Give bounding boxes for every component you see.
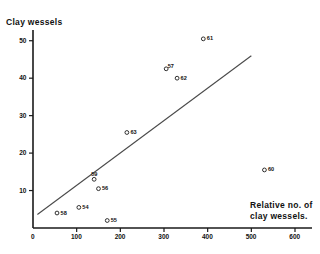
data-point-marker: [125, 131, 129, 135]
y-axis-tick-label: 20: [19, 149, 26, 156]
data-point-marker: [263, 168, 267, 172]
y-axis-tick-label: 50: [19, 37, 26, 44]
data-point-label: 62: [181, 75, 187, 81]
data-point-label: 63: [130, 129, 136, 135]
data-point-label: 56: [102, 185, 108, 191]
y-axis-tick-label: 10: [19, 187, 26, 194]
data-point-marker: [105, 219, 109, 223]
x-axis-title-line2: clay wessels.: [250, 211, 308, 221]
data-point-marker: [55, 211, 59, 215]
data-point-label: 61: [207, 35, 213, 41]
x-axis-tick-label: 100: [71, 233, 82, 240]
x-axis-tick-label: 400: [202, 233, 213, 240]
data-point-label: 54: [82, 204, 88, 210]
data-point-label: 59: [91, 171, 97, 177]
x-axis-title-line1: Relative no. of: [250, 200, 313, 210]
x-axis-title: Relative no. of clay wessels.: [250, 200, 320, 222]
data-point-label: 57: [168, 63, 174, 69]
regression-line: [37, 56, 251, 215]
data-point-label: 55: [111, 217, 117, 223]
x-axis-tick-label: 300: [158, 233, 169, 240]
y-axis-tick-label: 40: [19, 74, 26, 81]
data-point-marker: [201, 37, 205, 41]
data-point-marker: [97, 187, 101, 191]
x-axis-tick-label: 600: [289, 233, 300, 240]
y-axis-title: Clay wessels: [6, 17, 63, 27]
x-axis-tick-label: 200: [115, 233, 126, 240]
x-axis-tick-label: 0: [31, 233, 35, 240]
scatter-plot-figure: Clay wessels Relative no. of clay wessel…: [0, 0, 320, 254]
data-point-label: 60: [268, 166, 274, 172]
data-point-label: 58: [61, 210, 67, 216]
y-axis-tick-label: 30: [19, 112, 26, 119]
x-axis-tick-label: 500: [246, 233, 257, 240]
data-point-marker: [175, 76, 179, 80]
data-point-marker: [92, 177, 96, 181]
data-point-marker: [77, 206, 81, 210]
